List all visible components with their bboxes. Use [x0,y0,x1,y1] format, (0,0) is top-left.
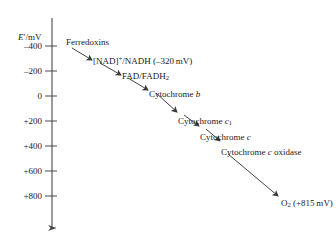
ferredoxins-name: Ferredoxins [66,37,109,47]
fad-name-prefix: FAD/FADH [122,71,166,81]
cytochrome-c-italic: c [247,132,251,142]
tick-label-plus600: +600 [8,167,42,176]
nad-name-suffix: /NADH (–320 mV) [122,56,192,66]
species-label-cytochrome-c: Cytochrome c [200,133,251,142]
tick-label-plus400: +400 [8,142,42,151]
species-label-oxygen: O2 (+815 mV) [281,199,333,209]
cytochrome-b-italic: b [196,89,201,99]
tick-label-plus800: +800 [8,192,42,201]
axis-ticks [45,46,57,196]
species-label-cytochrome-c-oxidase: Cytochrome c oxidase [221,148,302,157]
cytochrome-c-oxidase-prefix: Cytochrome [221,147,268,157]
tick-label-plus200: +200 [8,117,42,126]
tick-label-0: 0 [8,92,42,101]
cytochrome-c1-prefix: Cytochrome [178,116,225,126]
cytochrome-c1-subscript: 1 [229,119,232,126]
species-label-fad-fadh2: FAD/FADH2 [122,72,169,82]
redox-potential-diagram: E′/mV –400 –200 0 +200 +400 +600 +800 Fe… [0,0,336,236]
tick-label-minus400: –400 [8,42,42,51]
cytochrome-c-oxidase-suffix: oxidase [272,147,302,157]
species-label-cytochrome-c1: Cytochrome c1 [178,117,232,127]
fad-subscript: 2 [166,74,169,81]
cytochrome-c-prefix: Cytochrome [200,132,247,142]
species-label-ferredoxins: Ferredoxins [66,38,109,47]
tick-label-minus200: –200 [8,67,42,76]
species-label-nad-nadh: [NAD]+/NADH (–320 mV) [93,56,192,66]
nad-name-prefix: [NAD] [93,56,119,66]
cytochrome-b-prefix: Cytochrome [149,89,196,99]
species-label-cytochrome-b: Cytochrome b [149,90,200,99]
oxygen-suffix: (+815 mV) [291,198,333,208]
